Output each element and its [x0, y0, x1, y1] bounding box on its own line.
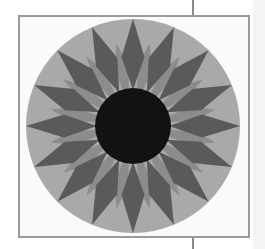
- center-circle: [95, 88, 171, 164]
- quilt-star-image: [0, 0, 265, 249]
